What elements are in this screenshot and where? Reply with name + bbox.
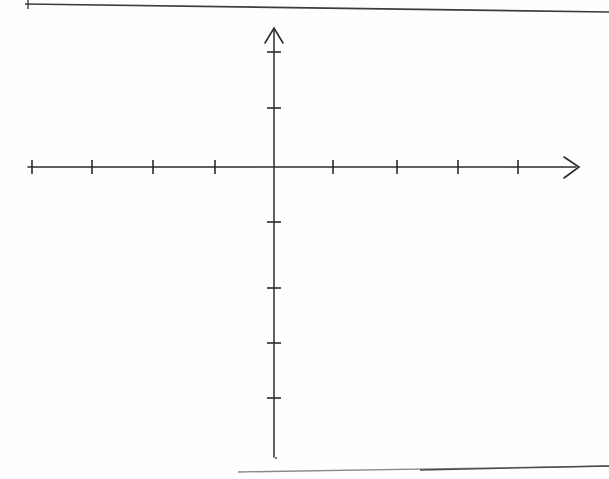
scan-speck	[275, 457, 277, 459]
scanned-page	[0, 0, 609, 479]
page-background	[0, 0, 609, 479]
coordinate-axes-figure	[0, 0, 609, 479]
